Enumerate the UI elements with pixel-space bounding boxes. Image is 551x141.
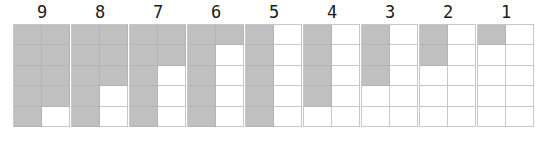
grid-cell-empty (332, 66, 360, 86)
cell-grid (303, 24, 360, 127)
grid-cell-empty (332, 107, 360, 127)
grid-cell-empty (274, 66, 302, 86)
group-count-label: 3 (361, 0, 419, 24)
grid-cell-empty (216, 45, 244, 65)
grid-cell-empty (478, 107, 506, 127)
grid-cell-empty (216, 107, 244, 127)
grid-cell-empty (362, 107, 390, 127)
grid-cell-empty (390, 66, 418, 86)
grid-cell-filled (100, 66, 128, 86)
grid-cell-empty (158, 86, 186, 106)
grid-cell-empty (448, 66, 476, 86)
grid-cell-empty (506, 107, 534, 127)
grid-cell-empty (390, 107, 418, 127)
grid-cell-filled (420, 25, 448, 45)
grid-cell-filled (158, 25, 186, 45)
grid-cell-filled (188, 86, 216, 106)
cell-grid (361, 24, 418, 127)
group-count-label: 4 (303, 0, 361, 24)
stimulus-group: 5 (245, 0, 303, 127)
grid-cell-filled (100, 25, 128, 45)
grid-cell-filled (188, 25, 216, 45)
grid-cell-filled (130, 107, 158, 127)
grid-cell-filled (72, 45, 100, 65)
stimulus-group: 8 (71, 0, 129, 127)
stimulus-group: 1 (477, 0, 535, 127)
grid-cell-filled (188, 45, 216, 65)
group-count-label: 2 (419, 0, 477, 24)
grid-cell-empty (448, 107, 476, 127)
grid-cell-filled (130, 45, 158, 65)
grid-cell-empty (216, 66, 244, 86)
group-count-label: 7 (129, 0, 187, 24)
grid-cell-filled (14, 86, 42, 106)
grid-cell-filled (362, 66, 390, 86)
grid-cell-filled (304, 45, 332, 65)
grid-cell-filled (188, 66, 216, 86)
grid-cell-empty (390, 45, 418, 65)
grid-cell-empty (274, 25, 302, 45)
grid-cell-filled (42, 45, 70, 65)
group-count-label: 6 (187, 0, 245, 24)
grid-cell-empty (420, 86, 448, 106)
cell-grid (419, 24, 476, 127)
cell-grid (71, 24, 128, 127)
cell-grid (13, 24, 70, 127)
grid-cell-filled (72, 86, 100, 106)
grid-cell-empty (506, 25, 534, 45)
grid-cell-empty (448, 25, 476, 45)
grid-cell-filled (42, 86, 70, 106)
stimulus-group: 4 (303, 0, 361, 127)
grid-cell-filled (362, 45, 390, 65)
grid-cell-empty (420, 107, 448, 127)
grid-cell-empty (42, 107, 70, 127)
grid-cell-filled (14, 66, 42, 86)
stimulus-group: 7 (129, 0, 187, 127)
cell-grid (187, 24, 244, 127)
grid-cell-empty (390, 86, 418, 106)
grid-cell-filled (130, 86, 158, 106)
grid-cell-empty (506, 45, 534, 65)
grid-cell-empty (274, 86, 302, 106)
grid-cell-empty (274, 45, 302, 65)
grid-cell-empty (420, 66, 448, 86)
grid-cell-filled (420, 45, 448, 65)
grid-cell-filled (14, 45, 42, 65)
cell-grid (129, 24, 186, 127)
grid-cell-empty (332, 45, 360, 65)
group-count-label: 5 (245, 0, 303, 24)
grid-cell-filled (100, 45, 128, 65)
grid-cell-empty (448, 86, 476, 106)
grid-cell-filled (304, 25, 332, 45)
grid-cell-filled (246, 45, 274, 65)
stimulus-row: 987654321 (0, 0, 551, 141)
grid-cell-empty (216, 86, 244, 106)
grid-cell-filled (362, 25, 390, 45)
stimulus-group: 3 (361, 0, 419, 127)
group-count-label: 8 (71, 0, 129, 24)
grid-cell-filled (246, 86, 274, 106)
grid-cell-filled (130, 25, 158, 45)
grid-cell-empty (158, 66, 186, 86)
grid-cell-empty (332, 86, 360, 106)
grid-cell-filled (216, 25, 244, 45)
grid-cell-filled (246, 25, 274, 45)
grid-cell-filled (246, 107, 274, 127)
stimulus-group: 6 (187, 0, 245, 127)
grid-cell-filled (158, 45, 186, 65)
grid-cell-empty (478, 45, 506, 65)
grid-cell-empty (158, 107, 186, 127)
grid-cell-filled (72, 25, 100, 45)
group-count-label: 9 (13, 0, 71, 24)
grid-cell-filled (188, 107, 216, 127)
grid-cell-empty (478, 66, 506, 86)
grid-cell-empty (274, 107, 302, 127)
grid-cell-filled (72, 66, 100, 86)
grid-cell-empty (506, 66, 534, 86)
grid-cell-empty (390, 25, 418, 45)
stimulus-group: 2 (419, 0, 477, 127)
grid-cell-filled (14, 25, 42, 45)
grid-cell-empty (304, 107, 332, 127)
grid-cell-filled (304, 66, 332, 86)
grid-cell-filled (14, 107, 42, 127)
